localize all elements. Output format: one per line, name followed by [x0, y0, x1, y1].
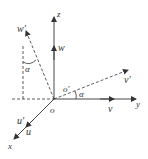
- label-u: u: [26, 126, 31, 137]
- w-prime-axis: [26, 31, 54, 99]
- label-v: v: [108, 103, 113, 114]
- label-o: o: [50, 105, 55, 115]
- label-u-prime: u′: [17, 115, 25, 126]
- alpha-arc-right: [75, 91, 76, 99]
- label-w: w: [58, 42, 65, 53]
- label-o-prime: o′: [63, 84, 71, 94]
- label-w-prime: w′: [17, 23, 27, 34]
- label-z: z: [56, 9, 61, 19]
- label-alpha-right: α: [79, 89, 84, 99]
- coordinate-diagram: z w w′ α v′ o′ α y v o u′ u x: [0, 0, 148, 159]
- projection-lines: [12, 44, 54, 99]
- label-y: y: [135, 99, 140, 109]
- label-v-prime: v′: [124, 74, 131, 85]
- label-alpha-top: α: [25, 64, 30, 74]
- label-x: x: [7, 141, 12, 151]
